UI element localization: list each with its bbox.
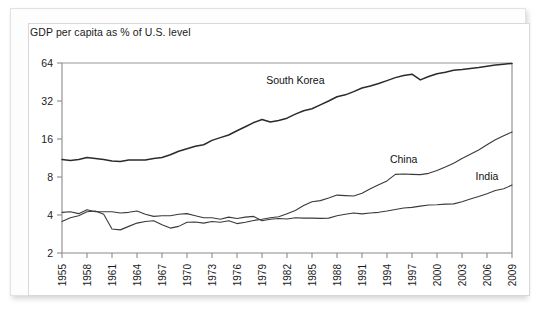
x-tick-label: 1979	[257, 264, 268, 287]
x-tick-label: 1976	[232, 264, 243, 287]
x-tick-label: 1982	[282, 264, 293, 287]
x-tick-label: 1970	[182, 264, 193, 287]
y-tick-label: 4	[47, 209, 53, 221]
x-tick-label: 1958	[82, 264, 93, 287]
x-tick-label: 1997	[407, 264, 418, 287]
x-tick-label: 1955	[57, 264, 68, 287]
x-tick-label: 1964	[132, 264, 143, 287]
x-tick-label: 2006	[482, 264, 493, 287]
line-chart-svg: 2481632641955195819611964196719701973197…	[0, 0, 546, 313]
series-line-india	[62, 185, 512, 221]
y-tick-label: 2	[47, 247, 53, 259]
x-tick-label: 1991	[357, 264, 368, 287]
annotations-group: South KoreaChinaIndia	[266, 74, 498, 182]
x-tick-label: 1973	[207, 264, 218, 287]
series-annotation-india: India	[476, 170, 499, 182]
x-tick-label: 2009	[507, 264, 518, 287]
series-annotation-china: China	[390, 153, 418, 165]
x-tick-label: 2000	[432, 264, 443, 287]
x-tick-label: 1985	[307, 264, 318, 287]
y-tick-label: 32	[41, 95, 53, 107]
y-tick-label: 8	[47, 171, 53, 183]
series-annotation-south-korea: South Korea	[266, 74, 325, 86]
series-line-china	[62, 132, 512, 230]
x-tick-label: 1994	[382, 264, 393, 287]
x-tick-label: 1967	[157, 264, 168, 287]
y-tick-label: 16	[41, 133, 53, 145]
x-tick-label: 1961	[107, 264, 118, 287]
axes-group: 2481632641955195819611964196719701973197…	[41, 57, 518, 286]
x-tick-label: 2003	[457, 264, 468, 287]
chart-page: GDP per capita as % of U.S. level 248163…	[0, 0, 546, 313]
x-tick-label: 1988	[332, 264, 343, 287]
y-tick-label: 64	[41, 57, 53, 69]
series-group	[62, 63, 512, 229]
